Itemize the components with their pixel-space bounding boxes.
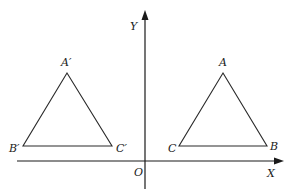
origin-label: O bbox=[134, 166, 143, 179]
y-axis-arrow-icon bbox=[142, 10, 149, 20]
triangle-a-prime-b-prime-c-prime bbox=[23, 73, 112, 146]
vertex-label-b-prime: B′ bbox=[8, 142, 20, 155]
y-axis-label: Y bbox=[130, 20, 139, 33]
x-axis-label: X bbox=[266, 167, 276, 180]
triangle-abc bbox=[179, 73, 267, 146]
x-axis-arrow-icon bbox=[274, 158, 284, 165]
vertex-label-c: C bbox=[168, 142, 177, 155]
coordinate-diagram: Y X O A′ B′ C′ A B C bbox=[0, 0, 289, 189]
vertex-label-a: A bbox=[218, 56, 227, 69]
vertex-label-c-prime: C′ bbox=[116, 142, 127, 155]
vertex-label-b: B bbox=[269, 140, 278, 153]
vertex-label-a-prime: A′ bbox=[60, 56, 72, 69]
